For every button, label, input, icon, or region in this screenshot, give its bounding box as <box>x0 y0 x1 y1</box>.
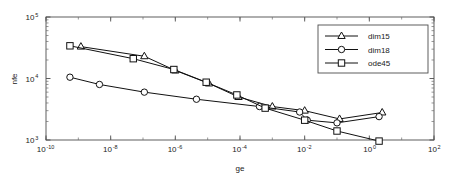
svg-text:-6: -6 <box>177 144 182 150</box>
svg-text:2: 2 <box>438 144 441 150</box>
data-point-dim18-0 <box>67 74 73 80</box>
x-tick-label-3: 10-4 <box>232 144 247 154</box>
x-tick-label-6: 102 <box>428 144 441 154</box>
data-point-ode45-7 <box>334 128 340 134</box>
legend-marker-circle <box>338 46 344 52</box>
data-point-dim18-2 <box>141 89 147 95</box>
svg-text:10: 10 <box>428 145 437 154</box>
y-tick-labels: 103104105 <box>26 12 39 145</box>
y-tick-label-1: 104 <box>26 73 39 83</box>
svg-text:-8: -8 <box>113 144 118 150</box>
data-point-ode45-4 <box>234 92 240 98</box>
svg-text:10: 10 <box>26 13 35 22</box>
y-tick-label-2: 105 <box>26 12 39 22</box>
x-tick-label-2: 10-6 <box>168 144 183 154</box>
data-point-ode45-6 <box>301 117 307 123</box>
data-point-dim18-7 <box>334 120 340 126</box>
legend-label-dim18: dim18 <box>368 46 390 55</box>
svg-text:-2: -2 <box>307 144 312 150</box>
svg-text:10: 10 <box>232 145 241 154</box>
svg-text:10: 10 <box>26 75 35 84</box>
y-axis-label: nfe <box>10 73 19 85</box>
data-point-ode45-3 <box>203 79 209 85</box>
x-tick-label-1: 10-8 <box>103 144 118 154</box>
svg-text:10: 10 <box>26 136 35 145</box>
svg-text:-4: -4 <box>242 144 247 150</box>
data-point-ode45-8 <box>376 138 382 144</box>
svg-text:10: 10 <box>297 145 306 154</box>
svg-text:3: 3 <box>35 135 38 141</box>
x-tick-label-5: 100 <box>363 144 376 154</box>
legend-marker-square <box>338 60 344 66</box>
series-line-dim18 <box>70 77 379 123</box>
y-tick-label-0: 103 <box>26 135 39 145</box>
data-point-dim18-8 <box>376 113 382 119</box>
svg-text:10: 10 <box>363 145 372 154</box>
legend-label-dim15: dim15 <box>368 32 390 41</box>
x-axis-label: ge <box>236 164 245 173</box>
svg-text:4: 4 <box>35 73 38 79</box>
data-point-ode45-0 <box>67 43 73 49</box>
svg-text:-10: -10 <box>46 144 54 150</box>
data-point-dim18-5 <box>296 109 302 115</box>
data-point-ode45-1 <box>130 55 136 61</box>
legend-label-ode45: ode45 <box>368 59 391 68</box>
x-tick-label-0: 10-10 <box>37 144 55 154</box>
data-point-ode45-5 <box>262 105 268 111</box>
svg-text:5: 5 <box>35 12 38 18</box>
data-point-dim18-1 <box>96 81 102 87</box>
chart-canvas: 10-1010-810-610-410-2100102 103104105 di… <box>0 0 464 177</box>
x-tick-label-4: 10-2 <box>297 144 312 154</box>
svg-text:10: 10 <box>37 145 46 154</box>
data-point-ode45-2 <box>171 66 177 72</box>
data-point-dim18-3 <box>193 96 199 102</box>
chart-legend[interactable]: dim15dim18ode45 <box>318 25 428 73</box>
svg-text:10: 10 <box>103 145 112 154</box>
svg-text:10: 10 <box>168 145 177 154</box>
x-tick-labels: 10-1010-810-610-410-2100102 <box>37 144 441 154</box>
chart-figure: 10-1010-810-610-410-2100102 103104105 di… <box>0 0 464 177</box>
